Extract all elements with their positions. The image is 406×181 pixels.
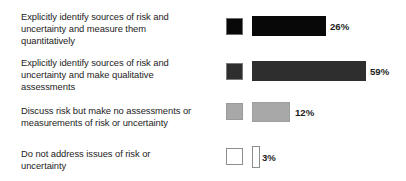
series-swatch (226, 63, 243, 80)
series-swatch (226, 18, 243, 35)
bar-value-label: 3% (262, 153, 276, 163)
series-swatch (226, 103, 243, 120)
horizontal-bar-chart: Explicitly identify sources of risk and … (0, 0, 406, 181)
bar-value-label: 26% (330, 22, 349, 32)
category-label: Explicitly identify sources of risk and … (21, 57, 221, 93)
bar-segment (252, 102, 290, 122)
bar-segment (252, 61, 366, 81)
bar-value-label: 59% (370, 67, 389, 77)
bar-segment (252, 16, 326, 36)
category-label: Explicitly identify sources of risk and … (21, 11, 221, 47)
series-swatch (226, 148, 243, 165)
category-label: Do not address issues of risk or uncerta… (21, 148, 221, 172)
category-label: Discuss risk but make no assessments or … (21, 105, 221, 129)
bar-value-label: 12% (295, 108, 314, 118)
bar-segment (252, 146, 260, 168)
